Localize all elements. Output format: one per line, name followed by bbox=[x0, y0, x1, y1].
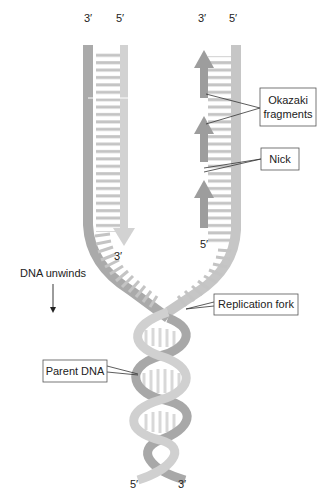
right-arm-lagging-strand bbox=[168, 45, 236, 312]
callout-parent-dna: Parent DNA bbox=[43, 360, 138, 382]
parent-dna-label: Parent DNA bbox=[46, 365, 105, 377]
base-pair-rungs bbox=[96, 52, 124, 232]
label-left-5prime: 5′ bbox=[116, 12, 124, 24]
helix-rungs bbox=[144, 328, 179, 433]
okazaki-label-line2: fragments bbox=[264, 108, 313, 120]
nick-label: Nick bbox=[269, 153, 291, 165]
label-right-3prime: 3′ bbox=[198, 12, 206, 24]
okazaki-label-line1: Okazaki bbox=[268, 94, 308, 106]
replication-fork-diagram: 3′ 5′ 3′ 5′ 3′ 5′ 5′ 3′ Okazaki fragment… bbox=[0, 0, 332, 496]
label-left-3prime: 3′ bbox=[84, 12, 92, 24]
left-arm-leading-strand bbox=[88, 45, 168, 318]
replication-fork-label: Replication fork bbox=[218, 298, 294, 310]
parent-dna-helix bbox=[134, 312, 187, 480]
label-bottom-5prime: 5′ bbox=[130, 478, 138, 490]
label-leading-3prime: 3′ bbox=[114, 250, 122, 262]
leading-strand bbox=[120, 45, 128, 231]
label-right-5prime: 5′ bbox=[229, 12, 237, 24]
label-lagging-5prime: 5′ bbox=[200, 238, 208, 250]
dna-unwinds-label: DNA unwinds bbox=[20, 267, 87, 279]
down-arrowhead-icon bbox=[50, 307, 56, 313]
dna-unwinds-annotation: DNA unwinds bbox=[20, 267, 87, 313]
label-bottom-3prime: 3′ bbox=[178, 478, 186, 490]
callout-replication-fork: Replication fork bbox=[186, 294, 298, 315]
base-pair-rungs bbox=[208, 56, 232, 246]
leading-strand-arrowhead bbox=[113, 228, 135, 246]
